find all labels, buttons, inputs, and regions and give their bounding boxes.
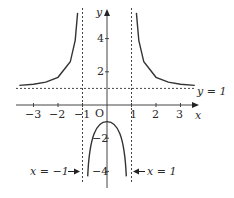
asymptote-x-minus-1-label: x = −1 [30, 165, 69, 178]
curve-right-branch [136, 13, 194, 86]
arrow-right-icon [74, 169, 80, 175]
y-tick-label: 2 [97, 65, 104, 78]
y-tick-label: 4 [97, 32, 104, 45]
y-axis-arrow-icon [104, 9, 110, 16]
origin-label: O [95, 107, 104, 120]
x-tick-label: −2 [49, 108, 65, 121]
y-tick-label: −4 [92, 165, 108, 178]
x-tick-label: −3 [25, 108, 41, 121]
graph-figure: y x O −3 −2 −1 1 2 3 4 2 −2 −4 y = 1 x =… [0, 0, 234, 198]
asymptote-y-1-label: y = 1 [196, 85, 226, 98]
curve-left-branch [19, 13, 77, 86]
x-tick-label: 1 [130, 108, 137, 121]
x-axis-label: x [195, 109, 202, 122]
arrow-left-icon [133, 169, 139, 175]
x-tick-label: 2 [152, 108, 159, 121]
y-tick-label: −2 [92, 132, 108, 145]
x-axis-arrow-icon [192, 102, 199, 108]
x-tick-label: −1 [74, 108, 90, 121]
y-axis-label: y [95, 6, 103, 19]
asymptote-x-1-label: x = 1 [147, 165, 176, 178]
x-tick-label: 3 [176, 108, 183, 121]
graph-canvas: y x O −3 −2 −1 1 2 3 4 2 −2 −4 y = 1 x =… [0, 0, 234, 198]
